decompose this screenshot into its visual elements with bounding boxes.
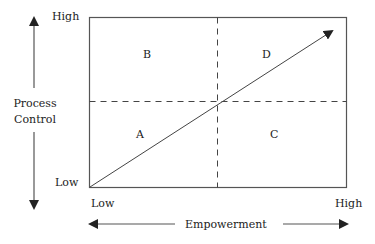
y-axis-title: Process Control <box>10 97 60 126</box>
quadrant-label-d: D <box>262 48 271 61</box>
quadrant-label-a: A <box>136 128 144 141</box>
diagonal-arrow <box>90 31 332 187</box>
x-axis-low-label: Low <box>91 197 114 210</box>
x-axis-title: Empowerment <box>185 218 267 231</box>
y-axis-title-line1: Process <box>10 97 60 110</box>
y-axis-high-label: High <box>52 10 79 23</box>
x-axis-high-label: High <box>335 197 362 210</box>
y-axis-title-line2: Control <box>10 113 60 126</box>
quadrant-label-b: B <box>143 48 151 61</box>
y-axis-low-label: Low <box>55 176 78 189</box>
quadrant-label-c: C <box>270 128 278 141</box>
